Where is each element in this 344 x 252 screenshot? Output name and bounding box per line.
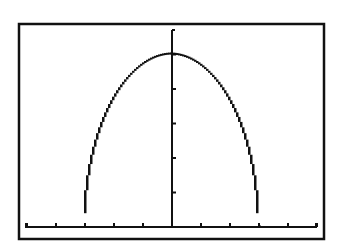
curve-segment (112, 97, 115, 101)
curve-segment (232, 104, 235, 108)
curve-segment (100, 122, 103, 127)
graph-screen: y = 5·sqrt(1 - x²/9) (0, 0, 344, 252)
curve-segment (236, 112, 239, 117)
curve-segment (234, 108, 237, 112)
curve-segment (226, 93, 229, 96)
curve-segment (240, 122, 243, 127)
curve-segment (118, 87, 121, 90)
curve-segment (88, 164, 91, 175)
curve-segment (244, 133, 247, 139)
curve-segment (204, 67, 207, 69)
curve-segment (216, 79, 219, 81)
curve-segment (208, 71, 211, 73)
curve-segment (116, 90, 119, 93)
curve-segment (130, 73, 133, 75)
curve-segment (96, 133, 99, 139)
curve-segment (250, 155, 253, 164)
curve-segment (214, 77, 217, 79)
curve-segment (86, 175, 89, 190)
curve-segment (106, 108, 109, 112)
curve-segment (134, 69, 137, 71)
curve-segment (218, 82, 221, 85)
axes (25, 30, 317, 227)
curve-segment (256, 190, 259, 213)
curve-segment (84, 190, 87, 213)
curve-segment (114, 93, 117, 96)
curve-segment (104, 112, 107, 117)
curve-segment (230, 100, 233, 104)
graph-canvas (0, 0, 344, 252)
curve-segment (124, 79, 127, 81)
curve-segment (206, 69, 209, 71)
curve-segment (110, 100, 113, 104)
curve-segment (238, 117, 241, 122)
curve-segment (126, 77, 129, 79)
curve-segment (248, 147, 251, 155)
curve-segment (92, 147, 95, 155)
curve-segment (258, 225, 261, 227)
curve-segment (228, 97, 231, 101)
curve-segment (246, 140, 249, 147)
curve-segment (224, 90, 227, 93)
curve-segment (128, 75, 131, 77)
curve-segment (108, 104, 111, 108)
curve-segment (98, 127, 101, 133)
curve-segment (252, 164, 255, 175)
curve-segment (90, 155, 93, 164)
curve-segment (102, 117, 105, 122)
curve-segment (120, 84, 123, 87)
curve-segment (122, 82, 125, 85)
curve-segment (210, 73, 213, 75)
curve-segment (132, 71, 135, 73)
curve-segment (254, 175, 257, 190)
curve-segment (242, 127, 245, 133)
curve-segment (94, 140, 97, 147)
curve-segment (222, 87, 225, 90)
curve-segment (220, 84, 223, 87)
curve-segment (212, 75, 215, 77)
